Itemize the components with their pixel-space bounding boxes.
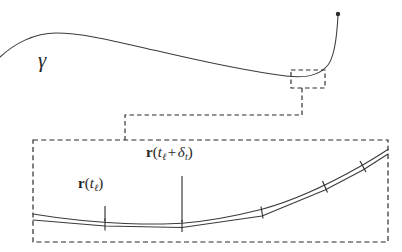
overview-panel [0,12,340,88]
plus-operator-glyph: + [168,144,176,160]
close-paren-glyph: ) [98,175,103,191]
zoom-connector-line [125,88,302,140]
vector-r-glyph: r [78,175,85,191]
gamma-curve [0,15,338,77]
node-tick-marks [105,161,366,232]
close-paren-glyph-2: ) [188,144,193,160]
zoom-region-box [291,70,325,88]
subscript-ell-glyph-2: ℓ [162,151,166,162]
figure-canvas [0,0,402,252]
gamma-symbol-label: γ [38,50,46,71]
label-r-of-t-ell-plus-delta-t: r(tℓ+δt) [146,145,193,162]
figure-root: γ r(tℓ) r(tℓ+δt) [0,0,402,252]
node-tick-3 [261,207,263,219]
label-r-of-t-ell: r(tℓ) [78,176,103,193]
vector-r-glyph-2: r [146,144,153,160]
delta-glyph: δ [178,144,185,160]
curve-endpoint-dot [336,12,340,16]
